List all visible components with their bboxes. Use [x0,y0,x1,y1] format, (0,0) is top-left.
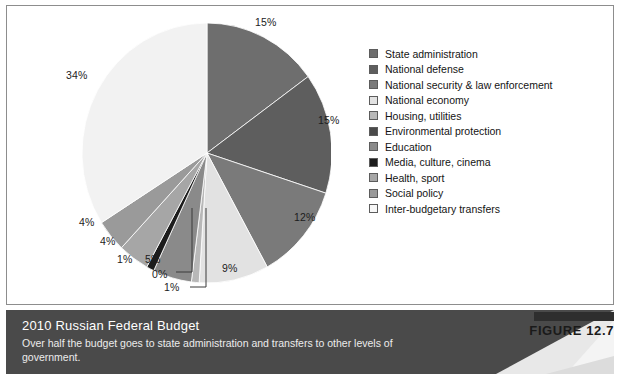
figure-container: State administrationNational defenseNati… [0,0,620,377]
legend-item-label: Inter-budgetary transfers [385,204,500,215]
legend-item: National economy [369,93,609,109]
pie-percentage-label: 15% [318,114,339,126]
legend-swatch-icon [369,127,378,136]
pie-slice-group [82,23,331,283]
legend-item-label: Health, sport [385,173,445,184]
legend-item: Social policy [369,186,609,202]
legend-item: Education [369,139,609,155]
legend-swatch-icon [369,173,378,182]
pie-percentage-label: 15% [255,16,276,28]
legend-item: National defense [369,62,609,78]
legend-item-label: Education [385,142,432,153]
legend-item: National security & law enforcement [369,77,609,93]
pie-chart [71,20,331,290]
legend-swatch-icon [369,189,378,198]
legend-swatch-icon [369,80,378,89]
legend-swatch-icon [369,49,378,58]
figure-number-label: FIGURE 12.7 [522,323,614,338]
pie-percentage-label: 1% [117,253,132,265]
legend-item-label: Housing, utilities [385,111,461,122]
pie-percentage-label: 5% [145,253,160,265]
pie-percentage-label: 9% [222,262,237,274]
legend-item-label: Media, culture, cinema [385,157,491,168]
chart-frame: State administrationNational defenseNati… [6,5,614,305]
legend-item-label: National defense [385,64,464,75]
legend: State administrationNational defenseNati… [369,46,609,217]
pie-percentage-label: 0% [152,268,167,280]
pie-percentage-label: 12% [294,211,315,223]
legend-item: Media, culture, cinema [369,155,609,171]
legend-swatch-icon [369,158,378,167]
legend-swatch-icon [369,142,378,151]
pie-percentage-label: 1% [164,281,179,293]
legend-swatch-icon [369,204,378,213]
legend-item: Health, sport [369,170,609,186]
pie-percentage-label: 4% [100,235,115,247]
legend-item-label: Social policy [385,188,443,199]
legend-item: Housing, utilities [369,108,609,124]
caption-subtitle: Over half the budget goes to state admin… [22,337,452,364]
caption-text-block: 2010 Russian Federal Budget Over half th… [22,318,452,364]
legend-item: Environmental protection [369,124,609,140]
legend-swatch-icon [369,111,378,120]
pie-percentage-label: 34% [66,69,87,81]
legend-item-label: National security & law enforcement [385,80,553,91]
legend-item-label: National economy [385,95,469,106]
legend-item-label: State administration [385,49,478,60]
pie-percentage-label: 4% [79,216,94,228]
legend-item: Inter-budgetary transfers [369,201,609,217]
legend-swatch-icon [369,96,378,105]
pie-chart-svg [71,20,331,290]
legend-item: State administration [369,46,609,62]
caption-title: 2010 Russian Federal Budget [22,318,452,333]
figure-number-accent-bar [534,312,614,321]
legend-swatch-icon [369,65,378,74]
figure-number-block: FIGURE 12.7 [522,312,614,338]
legend-item-label: Environmental protection [385,126,501,137]
